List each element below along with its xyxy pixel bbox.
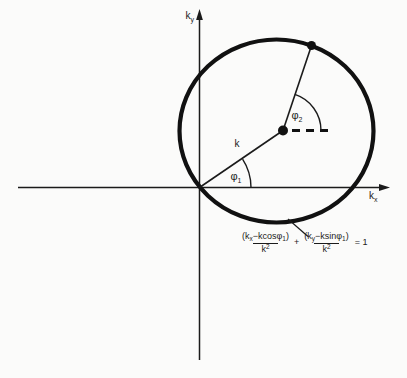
y-axis-label: ky	[186, 10, 195, 24]
figure-canvas: ky kx k φ2 φ1 (kx−kcosφ1) k2 + (ky−ksinφ…	[0, 0, 407, 378]
phi2-angle-arc	[295, 94, 321, 130]
fraction-x-numerator: (kx−kcosφ1)	[240, 232, 291, 243]
equation-fraction-x: (kx−kcosφ1) k2	[240, 232, 291, 255]
circle	[180, 40, 374, 223]
fraction-y-denominator: k2	[314, 243, 338, 255]
phi2-label: φ2	[291, 109, 302, 123]
y-axis-arrowhead-icon	[196, 9, 203, 20]
phi1-label: φ1	[230, 170, 241, 184]
k-vector-label: k	[235, 138, 241, 149]
phi1-angle-arc	[243, 159, 251, 187]
circle-point-dot	[307, 41, 316, 50]
fraction-x-denominator: k2	[253, 243, 277, 255]
x-axis-arrowhead-icon	[379, 184, 390, 191]
circle-equation: (kx−kcosφ1) k2 + (ky−ksinφ1) k2 = 1	[240, 232, 368, 255]
fraction-y-numerator: (ky−ksinφ1)	[302, 232, 350, 243]
x-axis-label: kx	[369, 190, 378, 203]
equation-result: = 1	[355, 238, 368, 248]
plus-operator: +	[294, 238, 299, 248]
circle-center-dot	[278, 126, 288, 136]
k-space-diagram: ky kx k φ2 φ1	[0, 0, 407, 378]
equation-fraction-y: (ky−ksinφ1) k2	[302, 232, 350, 255]
